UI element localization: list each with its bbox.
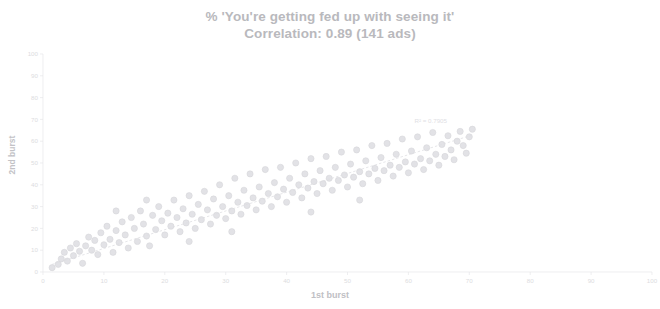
x-tick-group: 0102030405060708090100: [41, 272, 657, 284]
data-point: [153, 226, 159, 232]
data-point: [162, 232, 168, 238]
data-point: [326, 175, 332, 181]
data-point: [308, 156, 314, 162]
data-point: [451, 157, 457, 163]
data-point: [104, 223, 110, 229]
data-point: [76, 248, 82, 254]
data-point: [293, 160, 299, 166]
data-point: [354, 147, 360, 153]
data-point: [344, 184, 350, 190]
data-point: [271, 180, 277, 186]
data-point: [177, 229, 183, 235]
y-tick-label: 30: [31, 203, 38, 210]
data-point: [335, 177, 341, 183]
data-point: [150, 212, 156, 218]
data-point: [207, 221, 213, 227]
data-point: [262, 166, 268, 172]
data-point: [284, 199, 290, 205]
data-point: [277, 164, 283, 170]
data-point: [384, 140, 390, 146]
x-tick-label: 90: [588, 277, 595, 284]
data-point: [299, 195, 305, 201]
data-point: [411, 161, 417, 167]
x-axis-group: 0102030405060708090100: [41, 272, 657, 284]
data-point: [469, 126, 475, 132]
data-point: [125, 245, 131, 251]
data-point: [186, 238, 192, 244]
data-point: [350, 174, 356, 180]
data-point: [427, 158, 433, 164]
x-tick-label: 40: [283, 277, 290, 284]
data-point: [360, 181, 366, 187]
data-point: [113, 227, 119, 233]
data-point: [375, 177, 381, 183]
data-point: [402, 159, 408, 165]
data-point: [463, 150, 469, 156]
y-tick-label: 90: [31, 72, 38, 79]
data-point: [405, 170, 411, 176]
data-point: [70, 253, 76, 259]
data-point: [238, 211, 244, 217]
data-point: [226, 193, 232, 199]
data-point: [171, 197, 177, 203]
data-point: [247, 171, 253, 177]
data-point: [287, 175, 293, 181]
x-tick-label: 30: [222, 277, 229, 284]
y-axis-group: 0102030405060708090100: [28, 50, 43, 275]
data-point: [460, 142, 466, 148]
data-point: [369, 142, 375, 148]
data-point: [433, 151, 439, 157]
data-point: [357, 197, 363, 203]
data-point: [189, 211, 195, 217]
data-point: [314, 190, 320, 196]
data-point: [174, 214, 180, 220]
y-tick-group: 0102030405060708090100: [28, 50, 43, 275]
data-point: [290, 189, 296, 195]
plot-area: 0102030405060708090100 01020304050607080…: [0, 0, 660, 309]
data-point: [229, 229, 235, 235]
x-tick-label: 60: [405, 277, 412, 284]
data-point: [217, 182, 223, 188]
data-point: [442, 153, 448, 159]
data-point: [256, 184, 262, 190]
data-point: [393, 151, 399, 157]
data-point: [302, 171, 308, 177]
data-point: [454, 138, 460, 144]
data-point: [159, 218, 165, 224]
data-point: [347, 161, 353, 167]
data-point: [61, 249, 67, 255]
x-tick-label: 80: [527, 277, 534, 284]
data-point: [448, 147, 454, 153]
data-point: [192, 225, 198, 231]
data-point: [165, 210, 171, 216]
data-point: [378, 154, 384, 160]
data-point: [107, 236, 113, 242]
x-tick-label: 20: [161, 277, 168, 284]
data-point: [338, 149, 344, 155]
data-point: [86, 234, 92, 240]
y-tick-label: 0: [35, 268, 39, 275]
data-point: [195, 201, 201, 207]
data-point: [134, 238, 140, 244]
data-point: [119, 219, 125, 225]
data-point: [110, 249, 116, 255]
data-point: [417, 156, 423, 162]
data-point: [128, 214, 134, 220]
data-point: [201, 188, 207, 194]
data-point: [445, 133, 451, 139]
data-point: [387, 162, 393, 168]
data-point: [241, 187, 247, 193]
data-point: [296, 182, 302, 188]
y-tick-label: 80: [31, 94, 38, 101]
data-point: [244, 202, 250, 208]
data-point: [372, 165, 378, 171]
data-point: [274, 194, 280, 200]
data-point: [399, 136, 405, 142]
y-tick-label: 100: [28, 50, 39, 57]
x-tick-label: 10: [100, 277, 107, 284]
data-points-group: [49, 126, 475, 271]
trendline: [52, 135, 472, 264]
data-point: [146, 243, 152, 249]
data-point: [421, 166, 427, 172]
data-point: [156, 204, 162, 210]
